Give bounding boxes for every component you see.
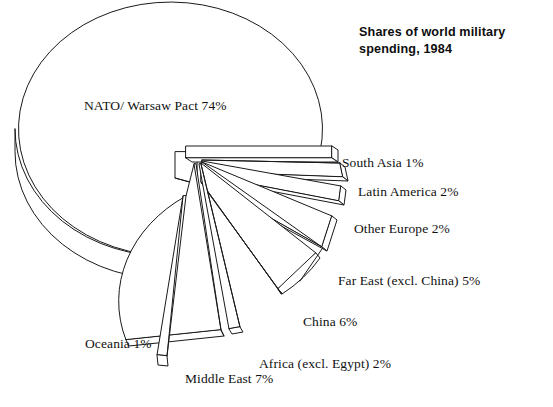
pie-chart-graphic <box>0 0 553 407</box>
slice-south-asia <box>186 146 338 162</box>
slice-label-africa: Africa (excl. Egypt) 2% <box>259 356 391 372</box>
chart-title: Shares of world military spending, 1984 <box>359 24 539 57</box>
slice-label-latin-america: Latin America 2% <box>358 184 459 200</box>
chart-title-line-2: spending, 1984 <box>359 41 539 58</box>
slice-label-far-east: Far East (excl. China) 5% <box>338 273 480 289</box>
slice-label-other-europe: Other Europe 2% <box>354 221 450 237</box>
chart-title-line-1: Shares of world military <box>359 24 539 41</box>
chart-page: Shares of world military spending, 1984 … <box>0 0 553 407</box>
slice-label-oceania: Oceania 1% <box>85 336 152 352</box>
slice-label-middle-east: Middle East 7% <box>185 371 273 387</box>
slice-label-south-asia: South Asia 1% <box>342 155 424 171</box>
slice-label-nato: NATO/ Warsaw Pact 74% <box>84 98 227 114</box>
slice-label-china: China 6% <box>303 314 357 330</box>
